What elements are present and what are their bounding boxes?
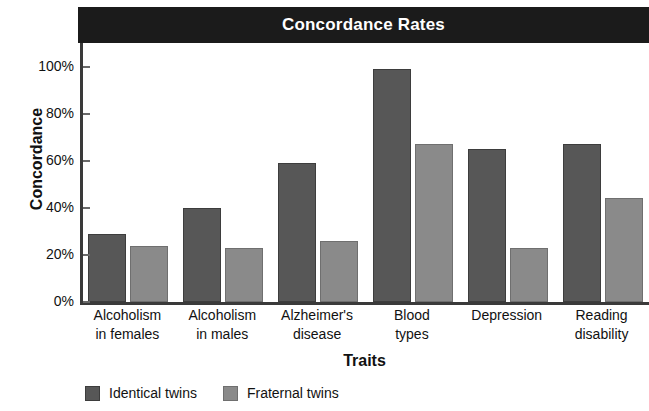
x-axis-tick-label-line: Alcoholism — [80, 306, 175, 325]
bar — [225, 248, 263, 302]
chart-title: Concordance Rates — [282, 15, 445, 35]
legend-swatch — [85, 386, 100, 401]
legend-label: Fraternal twins — [247, 385, 339, 401]
concordance-rates-chart: Concordance Rates Concordance 0%20%40%60… — [0, 0, 649, 411]
y-axis-tick — [83, 207, 90, 209]
legend-label: Identical twins — [109, 385, 197, 401]
x-axis-tick-label-line: types — [365, 325, 460, 344]
x-axis-line — [80, 302, 649, 305]
bar — [468, 149, 506, 302]
x-axis-tick-label-line: Reading — [554, 306, 649, 325]
x-axis-tick-label-line: disease — [270, 325, 365, 344]
bar — [130, 246, 168, 303]
chart-title-band: Concordance Rates — [78, 7, 649, 43]
x-axis-tick-label-line: Depression — [459, 306, 554, 325]
x-axis-tick-label: Alcoholismin females — [80, 306, 175, 344]
legend-item: Fraternal twins — [223, 385, 339, 401]
x-axis-tick-label-line: Blood — [365, 306, 460, 325]
y-axis-tick-label: 100% — [28, 58, 74, 74]
bar — [183, 208, 221, 302]
bar — [373, 69, 411, 302]
y-axis-tick-label: 80% — [28, 105, 74, 121]
plot-area — [80, 43, 649, 302]
y-axis-tick — [83, 160, 90, 162]
y-axis-tick — [83, 254, 90, 256]
x-axis-tick-label: Alzheimer'sdisease — [270, 306, 365, 344]
x-axis-tick-label: Readingdisability — [554, 306, 649, 344]
x-axis-tick-label-line: Alcoholism — [175, 306, 270, 325]
bar — [88, 234, 126, 302]
legend-swatch — [223, 386, 238, 401]
x-axis-tick-label: Alcoholismin males — [175, 306, 270, 344]
x-axis-tick-label: Depression — [459, 306, 554, 325]
bar — [320, 241, 358, 302]
y-axis-tick-label: 40% — [28, 199, 74, 215]
x-axis-tick-label: Bloodtypes — [365, 306, 460, 344]
x-axis-tick-label-line: disability — [554, 325, 649, 344]
x-axis-tick-labels: Alcoholismin femalesAlcoholismin malesAl… — [80, 306, 649, 352]
y-axis-tick — [83, 113, 90, 115]
x-axis-title: Traits — [80, 352, 649, 370]
bar — [605, 198, 643, 302]
y-axis-tick — [83, 66, 90, 68]
y-axis-tick-label: 60% — [28, 152, 74, 168]
bars-layer — [80, 43, 649, 302]
bar — [415, 144, 453, 302]
y-axis-tick — [83, 301, 90, 303]
bar — [510, 248, 548, 302]
y-axis-tick-label: 20% — [28, 246, 74, 262]
x-axis-tick-label-line: in males — [175, 325, 270, 344]
y-axis-tick-label: 0% — [28, 293, 74, 309]
bar — [278, 163, 316, 302]
legend-item: Identical twins — [85, 385, 197, 401]
chart-legend: Identical twinsFraternal twins — [85, 383, 365, 403]
x-axis-tick-label-line: in females — [80, 325, 175, 344]
bar — [563, 144, 601, 302]
x-axis-tick-label-line: Alzheimer's — [270, 306, 365, 325]
